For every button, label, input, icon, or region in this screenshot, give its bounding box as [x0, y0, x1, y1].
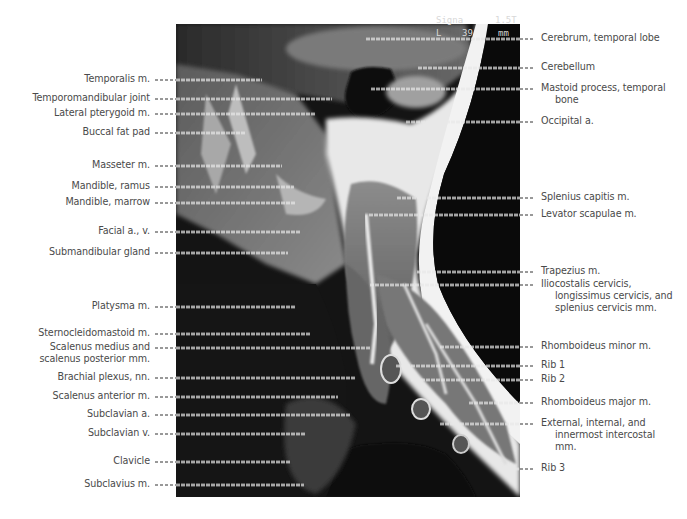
label-subclavian-v: Subclavian v.: [88, 427, 150, 439]
label-clavicle: Clavicle: [113, 455, 150, 467]
label-tmj: Temporomandibular joint: [32, 92, 150, 104]
label-temporalis: Temporalis m.: [84, 73, 150, 85]
label-platysma: Platysma m.: [92, 300, 150, 312]
annotated-mri-figure: Signa 1.5T L 39 mm Temporalis m.Temporom…: [0, 0, 687, 519]
label-rhomboideus-major: Rhomboideus major m.: [541, 396, 651, 408]
label-intercostal: External, internal, andinnermost interco…: [541, 417, 655, 453]
label-masseter: Masseter m.: [92, 159, 150, 171]
label-cerebrum-temporal-lobe: Cerebrum, temporal lobe: [541, 32, 660, 44]
label-mandible-marrow: Mandible, marrow: [65, 196, 150, 208]
label-mandible-ramus: Mandible, ramus: [72, 180, 151, 192]
label-submandibular-gland: Submandibular gland: [49, 246, 150, 258]
label-rib-3: Rib 3: [541, 462, 565, 474]
label-scalenus-anterior: Scalenus anterior m.: [52, 390, 150, 402]
label-splenius-capitis: Splenius capitis m.: [541, 191, 630, 203]
label-facial-av: Facial a., v.: [98, 225, 150, 237]
label-iliocostalis-cervicis: Iliocostalis cervicis,longissimus cervic…: [541, 278, 673, 314]
label-brachial-plexus: Brachial plexus, nn.: [57, 371, 150, 383]
label-trapezius: Trapezius m.: [541, 265, 600, 277]
label-sternocleidomastoid: Sternocleidomastoid m.: [38, 327, 150, 339]
label-rhomboideus-minor: Rhomboideus minor m.: [541, 340, 651, 352]
label-levator-scapulae: Levator scapulae m.: [541, 208, 637, 220]
label-cerebellum: Cerebellum: [541, 61, 595, 73]
label-occipital-a: Occipital a.: [541, 115, 594, 127]
label-subclavian-a: Subclavian a.: [87, 408, 150, 420]
label-mastoid-process: Mastoid process, temporalbone: [541, 82, 666, 106]
label-rib-1: Rib 1: [541, 359, 565, 371]
label-scalenus-medius-posterior: Scalenus medius andscalenus posterior mm…: [39, 341, 150, 365]
label-subclavius: Subclavius m.: [84, 478, 150, 490]
label-lateral-pterygoid: Lateral pterygoid m.: [54, 107, 150, 119]
label-rib-2: Rib 2: [541, 373, 565, 385]
label-buccal-fat-pad: Buccal fat pad: [82, 126, 150, 138]
